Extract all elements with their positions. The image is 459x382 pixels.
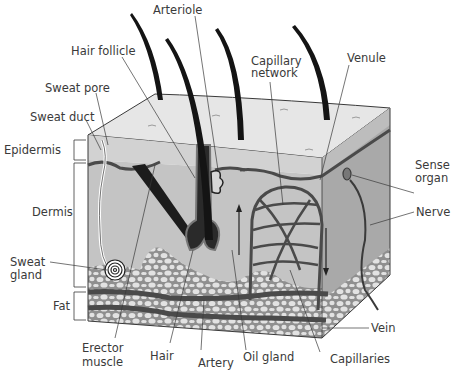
label-vein: Vein xyxy=(371,321,396,335)
label-epidermis: Epidermis xyxy=(4,143,61,157)
label-capillaries: Capillaries xyxy=(330,352,390,366)
label-erector-muscle-line2: muscle xyxy=(82,355,123,369)
label-sense-organ-line1: Sense xyxy=(415,158,450,172)
label-sweat-pore: Sweat pore xyxy=(45,81,110,95)
label-erector-muscle-line1: Erector xyxy=(82,341,123,355)
label-sense-organ-line2: organ xyxy=(415,171,448,185)
label-artery: Artery xyxy=(198,356,234,370)
label-fat: Fat xyxy=(53,299,70,313)
sweat-gland xyxy=(105,260,125,280)
sense-organ xyxy=(343,168,351,180)
label-hair: Hair xyxy=(150,349,174,363)
label-arteriole: Arteriole xyxy=(153,3,202,17)
label-sweat-gland-line2: gland xyxy=(10,268,42,282)
label-hair-follicle: Hair follicle xyxy=(71,44,136,58)
label-sweat-gland-line1: Sweat xyxy=(10,255,45,269)
label-nerve: Nerve xyxy=(416,205,450,219)
label-capillary-network-line2: network xyxy=(251,66,298,80)
label-sweat-duct: Sweat duct xyxy=(30,110,94,124)
label-oil-gland: Oil gland xyxy=(243,350,294,364)
label-dermis: Dermis xyxy=(32,205,73,219)
label-venule: Venule xyxy=(347,51,386,65)
